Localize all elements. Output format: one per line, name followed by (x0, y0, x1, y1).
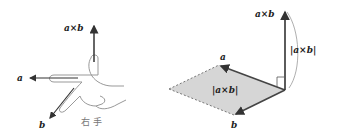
cross-product-diagram: a×b a b 右 手 a×b |a×b| |a×b| a b (0, 0, 338, 136)
label-magnitude: |a×b| (290, 45, 316, 56)
right-hand-figure: a×b a b 右 手 (17, 23, 126, 130)
parallelogram-figure: a×b |a×b| |a×b| a b (169, 9, 316, 130)
label-b: b (39, 120, 45, 130)
label-area: |a×b| (212, 85, 238, 96)
caption-right-hand: 右 手 (81, 116, 102, 127)
label-cross-right: a×b (255, 9, 275, 19)
label-a: a (17, 73, 23, 83)
right-angle-marker (277, 77, 284, 87)
vector-b (50, 88, 74, 118)
label-cross: a×b (64, 23, 84, 33)
label-b-right: b (231, 120, 237, 130)
label-a-right: a (220, 52, 226, 62)
